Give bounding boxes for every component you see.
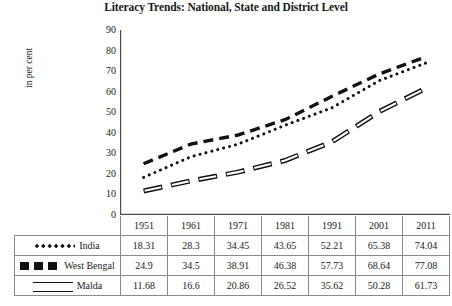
y-axis-tick-label: 10 — [90, 189, 116, 199]
table-cell: 20.86 — [215, 276, 262, 296]
table-cell: 28.3 — [168, 236, 215, 256]
table-cell: 24.9 — [121, 256, 168, 276]
table-cell: 38.91 — [215, 256, 262, 276]
table-cell: 26.52 — [262, 276, 309, 296]
y-axis-tick-label: 50 — [90, 107, 116, 117]
table-header-row: 1951 1961 1971 1981 1991 2001 2011 — [15, 216, 450, 236]
y-axis-tick-label: 20 — [90, 169, 116, 179]
table-col-header: 1981 — [262, 216, 309, 236]
table-col-header: 1951 — [121, 216, 168, 236]
table-cell: 52.21 — [309, 236, 356, 256]
legend-entry: India — [15, 236, 121, 256]
table-cell: 34.45 — [215, 236, 262, 256]
dotted-line-icon — [35, 242, 75, 250]
page-title: Literacy Trends: National, State and Dis… — [0, 1, 452, 13]
table-col-header: 1961 — [168, 216, 215, 236]
legend-entry: Malda — [15, 276, 121, 296]
legend-label: Malda — [77, 281, 103, 292]
plot-area — [120, 30, 450, 215]
table-row: West Bengal24.934.538.9146.3857.7368.647… — [15, 256, 450, 276]
table-row: Malda11.6816.620.8626.5235.6250.2861.73 — [15, 276, 450, 296]
table-cell: 43.65 — [262, 236, 309, 256]
legend-label: West Bengal — [64, 261, 115, 272]
chart-svg — [120, 30, 450, 215]
series-lines — [144, 57, 427, 191]
dashed-line-icon — [20, 262, 60, 270]
table-cell: 57.73 — [309, 256, 356, 276]
table-col-header: 1971 — [215, 216, 262, 236]
table-body: India18.3128.334.4543.6552.2165.3874.04W… — [15, 236, 450, 296]
y-axis-tick-label: 30 — [90, 148, 116, 158]
axis-lines — [121, 30, 451, 215]
table-cell: 34.5 — [168, 256, 215, 276]
table-row: India18.3128.334.4543.6552.2165.3874.04 — [15, 236, 450, 256]
table-cell: 61.73 — [403, 276, 450, 296]
table-col-header: 2011 — [403, 216, 450, 236]
y-axis-tick-label: 40 — [90, 128, 116, 138]
legend-label: India — [79, 241, 100, 252]
table-col-header: 2001 — [356, 216, 403, 236]
table-cell: 46.38 — [262, 256, 309, 276]
table-cell: 77.08 — [403, 256, 450, 276]
y-axis-tick-labels: 0102030405060708090 — [88, 30, 116, 215]
table-cell: 50.28 — [356, 276, 403, 296]
table-cell: 11.68 — [121, 276, 168, 296]
table-corner-cell — [15, 216, 121, 236]
y-axis-tick-label: 90 — [90, 25, 116, 35]
table-cell: 74.04 — [403, 236, 450, 256]
table-cell: 65.38 — [356, 236, 403, 256]
table-cell: 16.6 — [168, 276, 215, 296]
y-axis-tick-label: 70 — [90, 66, 116, 76]
series-line-inner — [144, 88, 427, 191]
data-table: 1951 1961 1971 1981 1991 2001 2011 India… — [14, 216, 450, 296]
table-col-header: 1991 — [309, 216, 356, 236]
series-line-malda — [144, 88, 427, 191]
table-cell: 35.62 — [309, 276, 356, 296]
legend-entry: West Bengal — [15, 256, 121, 276]
double-line-icon — [33, 282, 73, 292]
table-cell: 18.31 — [121, 236, 168, 256]
table-cell: 68.64 — [356, 256, 403, 276]
y-axis-title: in per cent — [24, 48, 34, 88]
y-axis-tick-label: 80 — [90, 46, 116, 56]
y-axis-tick-label: 60 — [90, 87, 116, 97]
